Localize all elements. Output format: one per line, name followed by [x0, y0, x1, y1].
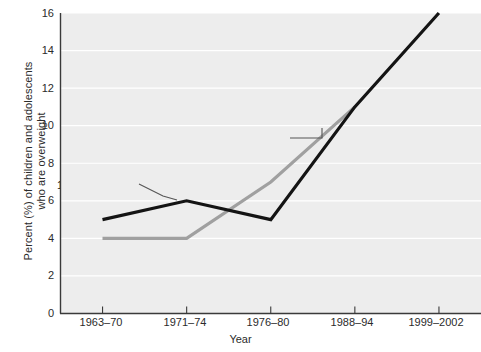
plot-area [0, 0, 481, 352]
chart-container: Percent (%) of children and adolescentsw… [0, 0, 481, 352]
